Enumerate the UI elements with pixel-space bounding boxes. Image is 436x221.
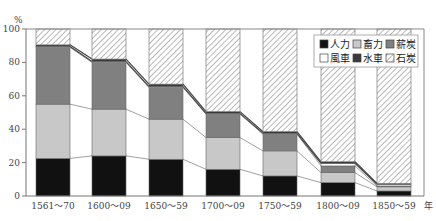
- legend-label-畜力: 畜力: [363, 38, 383, 50]
- bar-1650〜59: [149, 29, 183, 196]
- segment-水車: [92, 59, 126, 62]
- x-tick-label: 1600〜09: [87, 201, 131, 211]
- y-tick-label: 100: [3, 24, 20, 34]
- segment-水車: [149, 84, 183, 87]
- x-tick-label: 1700〜09: [201, 201, 245, 211]
- connector-line: [183, 119, 206, 137]
- y-unit-label: %: [14, 15, 23, 25]
- legend-swatch-畜力: [353, 40, 361, 48]
- legend-label-水車: 水車: [363, 52, 383, 64]
- segment-石炭: [263, 29, 297, 132]
- legend-swatch-水車: [353, 54, 361, 62]
- connector-line: [126, 59, 149, 84]
- legend: 人力畜力薪炭風車水車石炭: [314, 35, 418, 67]
- segment-人力: [321, 183, 355, 196]
- segment-人力: [149, 159, 183, 196]
- segment-薪炭: [206, 114, 240, 137]
- segment-畜力: [263, 151, 297, 176]
- segment-畜力: [149, 119, 183, 159]
- connector-line: [70, 47, 92, 62]
- y-tick-label: 60: [9, 91, 21, 101]
- connector-line: [355, 162, 377, 184]
- segment-石炭: [206, 29, 240, 112]
- connector-line: [240, 112, 263, 132]
- segment-畜力: [377, 187, 411, 191]
- connector-line: [183, 87, 206, 114]
- segment-人力: [206, 169, 240, 196]
- connector-line: [183, 84, 206, 112]
- x-tick-label: 1800〜09: [316, 201, 360, 211]
- connector-line: [240, 169, 263, 176]
- bar-1600〜09: [92, 29, 126, 196]
- segment-風車: [321, 163, 355, 166]
- connector-line: [297, 151, 321, 173]
- segment-人力: [36, 158, 70, 196]
- legend-swatch-薪炭: [386, 40, 394, 48]
- x-ticks: 1561〜701600〜091650〜591700〜091750〜591800〜…: [31, 201, 416, 211]
- x-unit-label: 年: [424, 200, 433, 211]
- segment-薪炭: [36, 47, 70, 104]
- connector-line: [297, 134, 321, 166]
- segment-薪炭: [92, 62, 126, 109]
- y-tick-label: 20: [9, 158, 21, 168]
- x-tick-label: 1850〜59: [372, 201, 416, 211]
- segment-人力: [377, 191, 411, 196]
- legend-label-薪炭: 薪炭: [396, 39, 416, 50]
- stacked-bar-chart: 020406080100 % 1561〜701600〜091650〜591700…: [0, 0, 436, 221]
- segment-石炭: [36, 29, 70, 45]
- connector-line: [240, 138, 263, 151]
- segment-石炭: [149, 29, 183, 84]
- legend-swatch-石炭: [386, 54, 394, 62]
- connector-line: [297, 133, 321, 163]
- legend-swatch-人力: [320, 40, 328, 48]
- segment-薪炭: [321, 166, 355, 173]
- connector-line: [70, 156, 92, 159]
- legend-label-人力: 人力: [330, 38, 350, 50]
- connector-line: [126, 62, 149, 87]
- segment-薪炭: [263, 134, 297, 151]
- connector-line: [355, 183, 377, 191]
- y-tick-label: 40: [9, 124, 21, 134]
- segment-畜力: [206, 138, 240, 170]
- connector-line: [70, 45, 92, 59]
- legend-label-石炭: 石炭: [396, 53, 416, 64]
- legend-label-風車: 風車: [330, 52, 350, 64]
- segment-畜力: [321, 173, 355, 183]
- bar-1561〜70: [36, 29, 70, 196]
- segment-石炭: [92, 29, 126, 59]
- y-ticks: 020406080100: [3, 24, 26, 201]
- connector-line: [183, 159, 206, 169]
- bar-1700〜09: [206, 29, 240, 196]
- y-tick-label: 0: [14, 191, 20, 201]
- connector-line: [126, 156, 149, 159]
- connector-line: [70, 104, 92, 109]
- segment-薪炭: [149, 87, 183, 119]
- connector-line: [297, 176, 321, 183]
- segment-畜力: [36, 104, 70, 158]
- segment-人力: [263, 176, 297, 196]
- connector-line: [355, 166, 377, 186]
- bar-1750〜59: [263, 29, 297, 196]
- segment-畜力: [92, 109, 126, 156]
- connector-line: [126, 109, 149, 119]
- legend-swatch-風車: [320, 54, 328, 62]
- y-tick-label: 80: [9, 57, 21, 67]
- connector-line: [297, 132, 321, 162]
- connector-line: [355, 163, 377, 184]
- connector-line: [240, 114, 263, 134]
- x-tick-label: 1561〜70: [31, 201, 75, 211]
- connector-line: [70, 47, 92, 62]
- segment-人力: [92, 156, 126, 196]
- x-tick-label: 1650〜59: [144, 201, 188, 211]
- connector-line: [240, 113, 263, 133]
- x-tick-label: 1750〜59: [258, 201, 302, 211]
